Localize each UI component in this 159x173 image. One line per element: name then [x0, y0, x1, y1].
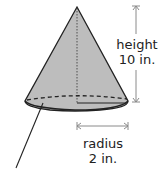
radius-value-text: 2 in. [78, 151, 128, 166]
base-pointer-line [16, 103, 43, 168]
height-value-text: 10 in. [116, 52, 158, 67]
height-label-text: height [116, 37, 158, 52]
radius-label-text: radius [78, 136, 128, 151]
height-label: height 10 in. [116, 37, 158, 67]
radius-dimension-arrow [77, 122, 128, 130]
radius-label: radius 2 in. [78, 136, 128, 166]
